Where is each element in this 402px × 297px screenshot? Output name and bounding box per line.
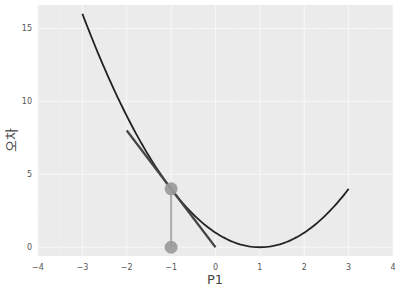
data-point	[165, 241, 178, 254]
x-tick-label: −1	[165, 263, 177, 272]
chart-svg: −4−3−2−101234 051015 P1 오차	[0, 0, 402, 297]
x-tick-label: −2	[121, 263, 133, 272]
data-point	[165, 182, 178, 195]
y-tick-label: 0	[27, 243, 32, 252]
x-axis-label: P1	[207, 272, 223, 287]
y-tick-label: 10	[22, 97, 32, 106]
x-tick-label: −4	[32, 263, 44, 272]
x-tick-label: 4	[390, 263, 395, 272]
x-tick-label: −3	[76, 263, 88, 272]
y-tick-label: 15	[22, 24, 32, 33]
y-axis-ticks: 051015	[22, 24, 32, 252]
x-tick-label: 3	[346, 263, 351, 272]
x-tick-label: 0	[213, 263, 218, 272]
x-tick-label: 1	[257, 263, 262, 272]
x-axis-ticks: −4−3−2−101234	[32, 263, 395, 272]
y-axis-label: 오차	[4, 128, 19, 152]
x-tick-label: 2	[302, 263, 307, 272]
y-tick-label: 5	[27, 170, 32, 179]
chart-figure: −4−3−2−101234 051015 P1 오차	[0, 0, 402, 297]
